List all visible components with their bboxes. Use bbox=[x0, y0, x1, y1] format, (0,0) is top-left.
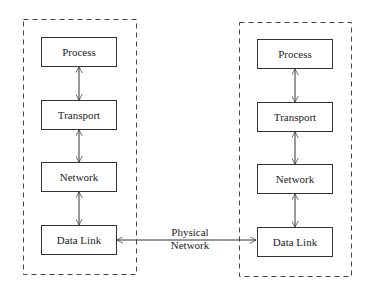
left-datalink-layer: Data Link bbox=[41, 225, 117, 255]
physical-network-label: Physical Network bbox=[150, 226, 230, 252]
link-label-line1: Physical bbox=[150, 226, 230, 239]
left-transport-layer: Transport bbox=[41, 100, 117, 130]
left-network-layer: Network bbox=[41, 162, 117, 192]
right-transport-layer: Transport bbox=[257, 102, 333, 132]
right-datalink-layer: Data Link bbox=[257, 227, 333, 257]
link-label-line2: Network bbox=[150, 239, 230, 252]
right-network-layer: Network bbox=[257, 164, 333, 194]
left-process-layer: Process bbox=[41, 37, 117, 67]
right-process-layer: Process bbox=[257, 39, 333, 69]
